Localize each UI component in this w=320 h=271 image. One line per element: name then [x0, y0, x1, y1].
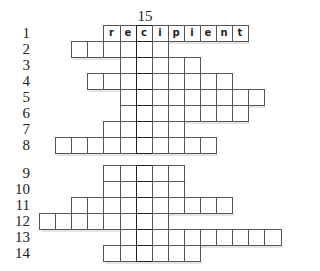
crossword-cell[interactable]: [152, 121, 169, 138]
key-column-cell[interactable]: [136, 213, 153, 230]
crossword-cell[interactable]: i: [152, 25, 169, 42]
key-column-cell[interactable]: [136, 73, 153, 90]
crossword-cell[interactable]: [120, 121, 137, 138]
crossword-cell[interactable]: [120, 73, 137, 90]
crossword-cell[interactable]: [184, 197, 201, 214]
crossword-cell[interactable]: [55, 137, 72, 154]
crossword-cell[interactable]: [87, 213, 104, 230]
crossword-cell[interactable]: [87, 197, 104, 214]
crossword-cell[interactable]: [120, 229, 137, 246]
crossword-cell[interactable]: [168, 105, 185, 122]
key-column-cell[interactable]: [136, 229, 153, 246]
crossword-cell[interactable]: [120, 213, 137, 230]
crossword-cell[interactable]: [248, 89, 265, 106]
crossword-cell[interactable]: [71, 213, 88, 230]
crossword-cell[interactable]: [103, 121, 121, 138]
key-column-cell[interactable]: [136, 41, 153, 58]
crossword-cell[interactable]: [232, 229, 249, 246]
crossword-cell[interactable]: [103, 181, 121, 198]
crossword-cell[interactable]: [120, 165, 137, 182]
crossword-cell[interactable]: [152, 181, 169, 198]
crossword-cell[interactable]: [248, 229, 265, 246]
crossword-cell[interactable]: [152, 165, 169, 182]
key-column-cell[interactable]: [136, 245, 153, 262]
crossword-cell[interactable]: [216, 229, 233, 246]
crossword-cell[interactable]: [103, 165, 121, 182]
crossword-cell[interactable]: [152, 137, 169, 154]
crossword-cell[interactable]: [216, 73, 233, 90]
crossword-cell[interactable]: [184, 57, 201, 74]
crossword-cell[interactable]: [200, 73, 217, 90]
crossword-cell[interactable]: [152, 41, 169, 58]
crossword-cell[interactable]: [200, 105, 217, 122]
crossword-cell[interactable]: [120, 137, 137, 154]
crossword-cell[interactable]: [103, 213, 121, 230]
crossword-cell[interactable]: [103, 41, 121, 58]
crossword-cell[interactable]: [103, 73, 121, 90]
crossword-cell[interactable]: [200, 89, 217, 106]
crossword-cell[interactable]: n: [216, 25, 233, 42]
crossword-cell[interactable]: [200, 137, 217, 154]
crossword-cell[interactable]: [71, 137, 88, 154]
crossword-cell[interactable]: [216, 105, 233, 122]
key-column-cell[interactable]: [136, 165, 153, 182]
key-column-cell[interactable]: [136, 57, 153, 74]
crossword-cell[interactable]: [200, 197, 217, 214]
crossword-cell[interactable]: [152, 197, 169, 214]
crossword-cell[interactable]: t: [232, 25, 249, 42]
crossword-cell[interactable]: [216, 197, 233, 214]
crossword-cell[interactable]: [152, 89, 169, 106]
key-column-cell[interactable]: [136, 197, 153, 214]
crossword-cell[interactable]: [168, 73, 185, 90]
crossword-cell[interactable]: [152, 57, 169, 74]
crossword-cell[interactable]: [120, 245, 137, 262]
crossword-cell[interactable]: [184, 137, 201, 154]
crossword-cell[interactable]: i: [184, 25, 201, 42]
crossword-cell[interactable]: [120, 89, 137, 106]
crossword-cell[interactable]: [168, 229, 185, 246]
crossword-cell[interactable]: [184, 229, 201, 246]
crossword-cell[interactable]: [71, 197, 88, 214]
key-column-cell[interactable]: [136, 121, 153, 138]
crossword-cell[interactable]: [184, 73, 201, 90]
crossword-cell[interactable]: [184, 105, 201, 122]
crossword-cell[interactable]: [168, 137, 185, 154]
crossword-cell[interactable]: [55, 213, 72, 230]
crossword-cell[interactable]: [152, 229, 169, 246]
crossword-cell[interactable]: [168, 89, 185, 106]
crossword-cell[interactable]: [184, 245, 201, 262]
crossword-cell[interactable]: [232, 89, 249, 106]
crossword-cell[interactable]: [120, 41, 137, 58]
crossword-cell[interactable]: [168, 197, 185, 214]
crossword-cell[interactable]: [152, 245, 169, 262]
crossword-cell[interactable]: [264, 229, 282, 246]
crossword-cell[interactable]: e: [200, 25, 217, 42]
crossword-cell[interactable]: [168, 121, 185, 138]
crossword-cell[interactable]: r: [103, 25, 121, 42]
crossword-cell[interactable]: e: [120, 25, 137, 42]
crossword-cell[interactable]: [71, 41, 88, 58]
key-column-cell[interactable]: [136, 105, 153, 122]
crossword-cell[interactable]: [152, 73, 169, 90]
crossword-cell[interactable]: [168, 165, 185, 182]
crossword-cell[interactable]: [120, 105, 137, 122]
crossword-cell[interactable]: [168, 245, 185, 262]
crossword-cell[interactable]: [232, 105, 249, 122]
key-column-cell[interactable]: [136, 181, 153, 198]
crossword-cell[interactable]: [152, 213, 169, 230]
crossword-cell[interactable]: [152, 105, 169, 122]
crossword-cell[interactable]: [39, 213, 56, 230]
crossword-cell[interactable]: [216, 89, 233, 106]
key-column-cell[interactable]: [136, 137, 153, 154]
crossword-cell[interactable]: p: [168, 25, 185, 42]
crossword-cell[interactable]: [120, 197, 137, 214]
crossword-cell[interactable]: [103, 245, 121, 262]
crossword-cell[interactable]: [200, 229, 217, 246]
crossword-cell[interactable]: [168, 57, 185, 74]
crossword-cell[interactable]: [103, 197, 121, 214]
crossword-cell[interactable]: [120, 181, 137, 198]
crossword-cell[interactable]: [87, 73, 104, 90]
crossword-cell[interactable]: [87, 41, 104, 58]
crossword-cell[interactable]: [184, 89, 201, 106]
key-column-cell[interactable]: [136, 89, 153, 106]
